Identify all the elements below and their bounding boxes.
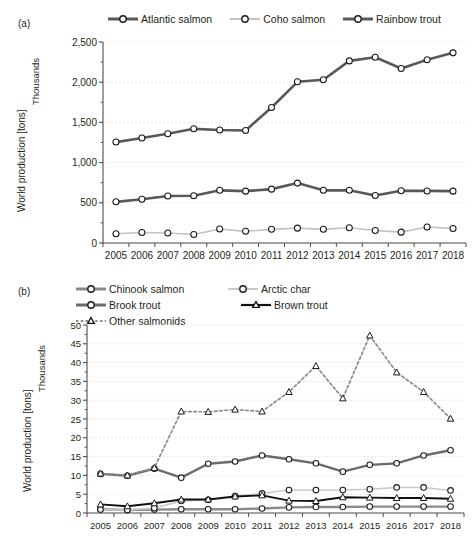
data-point-marker [313, 363, 319, 369]
panel-a-plot-area: 05001,0001,5002,0002,5002005200620072008… [0, 0, 476, 280]
data-point-marker [269, 226, 275, 232]
data-point-marker [294, 79, 300, 85]
data-point-marker [320, 77, 326, 83]
data-point-marker [165, 193, 171, 199]
x-tick-label: 2007 [144, 520, 165, 531]
series-rainbow-trout [113, 180, 456, 205]
x-tick-label: 2018 [442, 250, 465, 261]
x-tick-label: 2005 [90, 520, 111, 531]
data-point-marker [259, 506, 265, 512]
data-point-marker [232, 459, 238, 465]
y-tick-label: 45 [70, 338, 81, 349]
x-tick-label: 2009 [209, 250, 232, 261]
panel-a: (a) Atlantic salmon Coho [0, 0, 476, 280]
x-tick-label: 2014 [338, 250, 361, 261]
data-point-marker [243, 188, 249, 194]
data-point-marker [217, 187, 223, 193]
data-point-marker [340, 487, 346, 493]
x-tick-label: 2006 [117, 520, 138, 531]
x-tick-label: 2015 [364, 250, 387, 261]
data-point-marker [421, 504, 427, 510]
y-tick-label: 40 [70, 357, 81, 368]
data-point-marker [398, 66, 404, 72]
data-point-marker [346, 58, 352, 64]
data-point-marker [139, 230, 145, 236]
x-tick-label: 2011 [252, 520, 272, 531]
x-tick-label: 2006 [131, 250, 154, 261]
data-point-marker [113, 139, 119, 145]
data-point-marker [448, 504, 454, 510]
data-point-marker [398, 188, 404, 194]
x-tick-label: 2016 [386, 520, 407, 531]
y-tick-label: 0 [76, 508, 81, 519]
y-tick-label: 2,500 [72, 37, 97, 48]
data-point-marker [372, 54, 378, 60]
y-tick-label: 5 [76, 489, 81, 500]
data-point-marker [191, 232, 197, 238]
series-coho-salmon [113, 224, 456, 238]
data-point-marker [394, 485, 400, 491]
data-point-marker [259, 408, 265, 414]
data-point-marker [424, 224, 430, 230]
data-point-marker [243, 228, 249, 234]
x-tick-label: 2014 [332, 520, 353, 531]
data-point-marker [294, 225, 300, 231]
y-tick-label: 20 [70, 432, 81, 443]
data-point-marker [178, 475, 184, 481]
x-tick-label: 2011 [261, 250, 283, 261]
figure-world-salmonid-production: (a) Atlantic salmon Coho [0, 0, 476, 550]
data-point-marker [165, 230, 171, 236]
x-tick-label: 2007 [157, 250, 180, 261]
data-point-marker [450, 50, 456, 56]
data-point-marker [313, 504, 319, 510]
data-point-marker [346, 225, 352, 231]
data-point-marker [217, 127, 223, 133]
data-point-marker [450, 226, 456, 232]
series-other-salmonids [97, 332, 454, 478]
data-point-marker [424, 57, 430, 63]
panel-b-plot-area: 0510152025303540455020052006200720082009… [0, 280, 476, 550]
data-point-marker [191, 126, 197, 132]
data-point-marker [286, 487, 292, 493]
x-tick-label: 2010 [234, 250, 257, 261]
x-tick-label: 2017 [413, 520, 434, 531]
y-tick-label: 1,000 [72, 157, 97, 168]
x-tick-label: 2016 [390, 250, 413, 261]
data-point-marker [113, 231, 119, 237]
x-tick-label: 2010 [225, 520, 246, 531]
y-tick-label: 25 [70, 414, 81, 425]
data-point-marker [367, 332, 373, 338]
x-tick-label: 2013 [305, 520, 326, 531]
y-tick-label: 15 [70, 451, 81, 462]
data-point-marker [243, 127, 249, 133]
data-point-marker [450, 188, 456, 194]
data-point-marker [340, 504, 346, 510]
data-point-marker [313, 461, 319, 467]
data-point-marker [139, 196, 145, 202]
data-point-marker [139, 135, 145, 141]
data-point-marker [398, 229, 404, 235]
data-point-marker [448, 447, 454, 453]
y-tick-label: 500 [80, 197, 97, 208]
y-tick-label: 10 [70, 470, 81, 481]
x-tick-label: 2015 [359, 520, 380, 531]
data-point-marker [269, 186, 275, 192]
x-tick-label: 2012 [278, 520, 299, 531]
data-point-marker [394, 461, 400, 467]
data-point-marker [205, 461, 211, 467]
data-point-marker [286, 456, 292, 462]
y-tick-label: 0 [91, 238, 97, 249]
x-tick-label: 2005 [105, 250, 128, 261]
data-point-marker [320, 226, 326, 232]
series-atlantic-salmon [113, 50, 456, 145]
panel-b: (b) Chinook salmon Arctic [0, 280, 476, 550]
x-tick-label: 2012 [286, 250, 309, 261]
data-point-marker [367, 487, 373, 493]
data-point-marker [269, 105, 275, 111]
y-tick-label: 50 [70, 320, 81, 331]
data-point-marker [367, 462, 373, 468]
data-point-marker [232, 506, 238, 512]
x-tick-label: 2017 [416, 250, 439, 261]
data-point-marker [320, 187, 326, 193]
data-point-marker [421, 485, 427, 491]
